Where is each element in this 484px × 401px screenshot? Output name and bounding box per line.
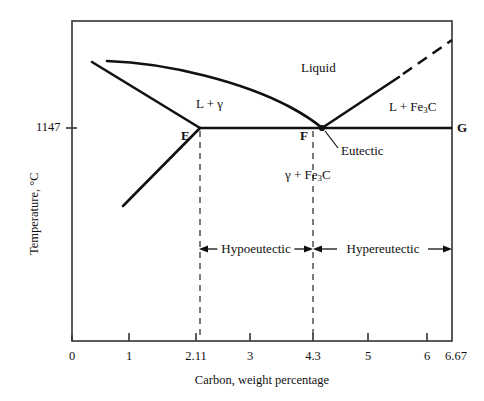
x-axis-ticks	[72, 333, 427, 341]
x-tick-label-2-11: 2.11	[185, 350, 206, 363]
eutectic-callout-leader	[325, 131, 338, 148]
point-label-g: G	[457, 121, 467, 134]
x-tick-label-0: 0	[69, 350, 75, 363]
x-tick-label-4-3: 4.3	[305, 350, 321, 363]
liquidus-left-curve	[107, 61, 322, 128]
plot-frame	[72, 21, 452, 341]
annotation-hypoeutectic: Hypoeutectic	[217, 242, 294, 255]
region-label-gamma-plus-fe3c-sub: 3	[318, 173, 322, 183]
cementite-liquidus-dashed	[403, 40, 452, 74]
region-label-l-plus-fe3c-sub: 3	[423, 105, 427, 115]
region-label-gamma-plus-fe3c-pre: γ + Fe	[285, 167, 318, 182]
point-label-f: F	[300, 129, 308, 142]
region-label-liquid: Liquid	[301, 61, 336, 74]
region-label-l-plus-fe3c-post: C	[428, 99, 437, 114]
region-label-l-plus-fe3c-pre: L + Fe	[389, 99, 423, 114]
x-tick-label-6-67: 6.67	[445, 350, 467, 363]
region-label-l-plus-gamma: L + γ	[196, 97, 223, 110]
x-tick-label-3: 3	[247, 350, 253, 363]
region-label-gamma-plus-fe3c-post: C	[322, 167, 331, 182]
x-tick-label-5: 5	[365, 350, 371, 363]
x-axis-title: Carbon, weight percentage	[195, 374, 329, 387]
eutectic-point-marker	[319, 125, 325, 131]
x-tick-label-6: 6	[424, 350, 430, 363]
region-label-l-plus-fe3c: L + Fe3C	[389, 100, 436, 113]
region-label-gamma-plus-fe3c: γ + Fe3C	[285, 168, 331, 181]
phase-diagram-canvas	[0, 0, 484, 401]
y-axis-title: Temperature, °C	[28, 172, 41, 255]
cementite-liquidus-solid	[322, 77, 399, 128]
x-tick-label-1: 1	[126, 350, 132, 363]
annotation-eutectic: Eutectic	[341, 144, 384, 157]
y-tick-label-1147: 1147	[36, 121, 61, 134]
annotation-hypereutectic: Hypereutectic	[343, 242, 424, 255]
point-label-e: E	[181, 129, 190, 142]
phase-diagram-figure: Temperature, °C 1147 0 1 2.11 3 4.3 5 6 …	[0, 0, 484, 401]
